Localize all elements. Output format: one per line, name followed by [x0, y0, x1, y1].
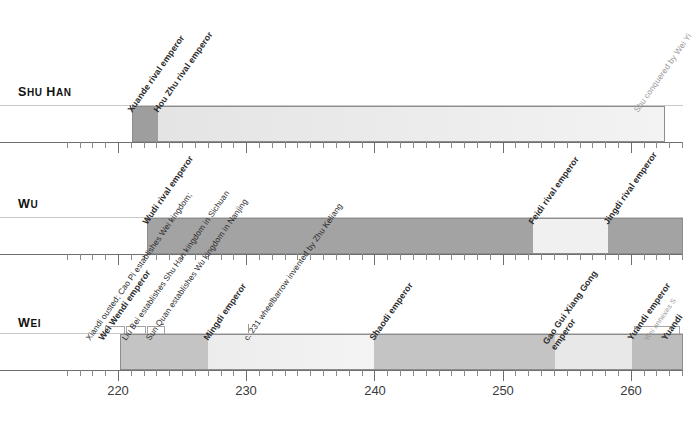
axis-tick-minor — [618, 370, 619, 376]
axis-tick-minor — [541, 370, 542, 376]
axis-tick-major — [631, 370, 632, 381]
axis-tick-minor — [669, 370, 670, 376]
axis-tick-minor — [362, 254, 363, 260]
axis-tick-minor — [400, 142, 401, 148]
axis-tick-minor — [349, 142, 350, 148]
axis-wu — [0, 254, 683, 268]
axis-tick-minor — [592, 370, 593, 376]
axis-tick-minor — [362, 370, 363, 376]
axis-tick-minor — [413, 142, 414, 148]
axis-tick-major — [503, 370, 504, 381]
axis-tick-minor — [92, 142, 93, 148]
axis-tick-major — [118, 370, 119, 381]
bar-segment-feidi[interactable] — [533, 218, 608, 254]
axis-tick-major — [118, 142, 119, 153]
axis-wei — [0, 370, 683, 384]
axis-tick-minor — [464, 254, 465, 260]
bar-segment-mingdi[interactable] — [208, 334, 374, 370]
axis-tick-minor — [233, 142, 234, 148]
axis-tick-minor — [80, 142, 81, 148]
axis-tick-minor — [169, 370, 170, 376]
axis-tick-minor — [413, 254, 414, 260]
axis-tick-minor — [272, 370, 273, 376]
axis-tick-minor — [426, 254, 427, 260]
axis-tick-minor — [144, 142, 145, 148]
axis-tick-minor — [182, 142, 183, 148]
axis-tick-minor — [618, 142, 619, 148]
bar-segment-shaodi[interactable] — [374, 334, 555, 370]
axis-tick-minor — [67, 254, 68, 260]
axis-tick-minor — [221, 254, 222, 260]
bar-segment-jingdi[interactable] — [608, 218, 683, 254]
axis-tick-minor — [567, 142, 568, 148]
axis-tick-minor — [644, 142, 645, 148]
year-label-250: 250 — [492, 383, 514, 398]
axis-tick-major — [246, 142, 247, 153]
axis-tick-minor — [413, 370, 414, 376]
axis-tick-minor — [644, 254, 645, 260]
bar-segment-wei-wendi[interactable] — [120, 334, 208, 370]
axis-tick-minor — [554, 254, 555, 260]
axis-tick-minor — [451, 142, 452, 148]
axis-tick-minor — [156, 370, 157, 376]
axis-tick-minor — [439, 370, 440, 376]
axis-tick-minor — [490, 142, 491, 148]
axis-tick-minor — [644, 370, 645, 376]
axis-tick-minor — [105, 254, 106, 260]
axis-tick-minor — [439, 142, 440, 148]
axis-tick-minor — [439, 254, 440, 260]
axis-tick-minor — [221, 142, 222, 148]
axis-tick-minor — [272, 254, 273, 260]
axis-tick-minor — [656, 142, 657, 148]
axis-tick-minor — [387, 254, 388, 260]
axis-tick-minor — [80, 254, 81, 260]
axis-tick-minor — [259, 370, 260, 376]
bar-segment-hou-zhu[interactable] — [158, 106, 665, 142]
axis-tick-minor — [618, 254, 619, 260]
row-label-shu-han: SHU HAN — [18, 85, 72, 99]
year-label-260: 260 — [620, 383, 642, 398]
axis-tick-minor — [387, 370, 388, 376]
axis-tick-minor — [195, 142, 196, 148]
event-label-jingdi: Jingdi rival emperor — [602, 151, 659, 227]
bar-segment-yuandi[interactable] — [632, 334, 683, 370]
axis-tick-minor — [451, 370, 452, 376]
axis-tick-minor — [156, 142, 157, 148]
axis-tick-minor — [400, 370, 401, 376]
row-label-wei: WEI — [18, 316, 41, 330]
axis-tick-minor — [297, 142, 298, 148]
axis-tick-minor — [477, 370, 478, 376]
axis-tick-minor — [92, 254, 93, 260]
axis-tick-minor — [349, 254, 350, 260]
axis-tick-minor — [323, 254, 324, 260]
axis-tick-minor — [515, 254, 516, 260]
axis-tick-minor — [682, 254, 683, 260]
axis-tick-minor — [195, 370, 196, 376]
axis-tick-major — [374, 254, 375, 265]
axis-tick-minor — [92, 370, 93, 376]
axis-tick-minor — [310, 370, 311, 376]
axis-tick-minor — [285, 254, 286, 260]
axis-tick-minor — [336, 370, 337, 376]
axis-tick-minor — [323, 142, 324, 148]
axis-tick-minor — [490, 254, 491, 260]
axis-tick-minor — [336, 254, 337, 260]
axis-tick-minor — [336, 142, 337, 148]
axis-tick-major — [246, 254, 247, 265]
axis-tick-minor — [477, 142, 478, 148]
axis-tick-minor — [554, 142, 555, 148]
axis-tick-minor — [554, 370, 555, 376]
row-label-wu: WU — [18, 197, 38, 211]
axis-tick-major — [631, 254, 632, 265]
event-label-shu-conquered: Shu conquered by Wei Yi — [632, 32, 694, 115]
axis-tick-minor — [169, 254, 170, 260]
axis-tick-minor — [515, 370, 516, 376]
axis-tick-minor — [156, 254, 157, 260]
axis-tick-minor — [67, 142, 68, 148]
axis-tick-minor — [426, 142, 427, 148]
axis-tick-minor — [580, 142, 581, 148]
axis-tick-major — [118, 254, 119, 265]
bar-segment-gao-gui-xiang-gong[interactable] — [555, 334, 632, 370]
axis-tick-minor — [528, 370, 529, 376]
